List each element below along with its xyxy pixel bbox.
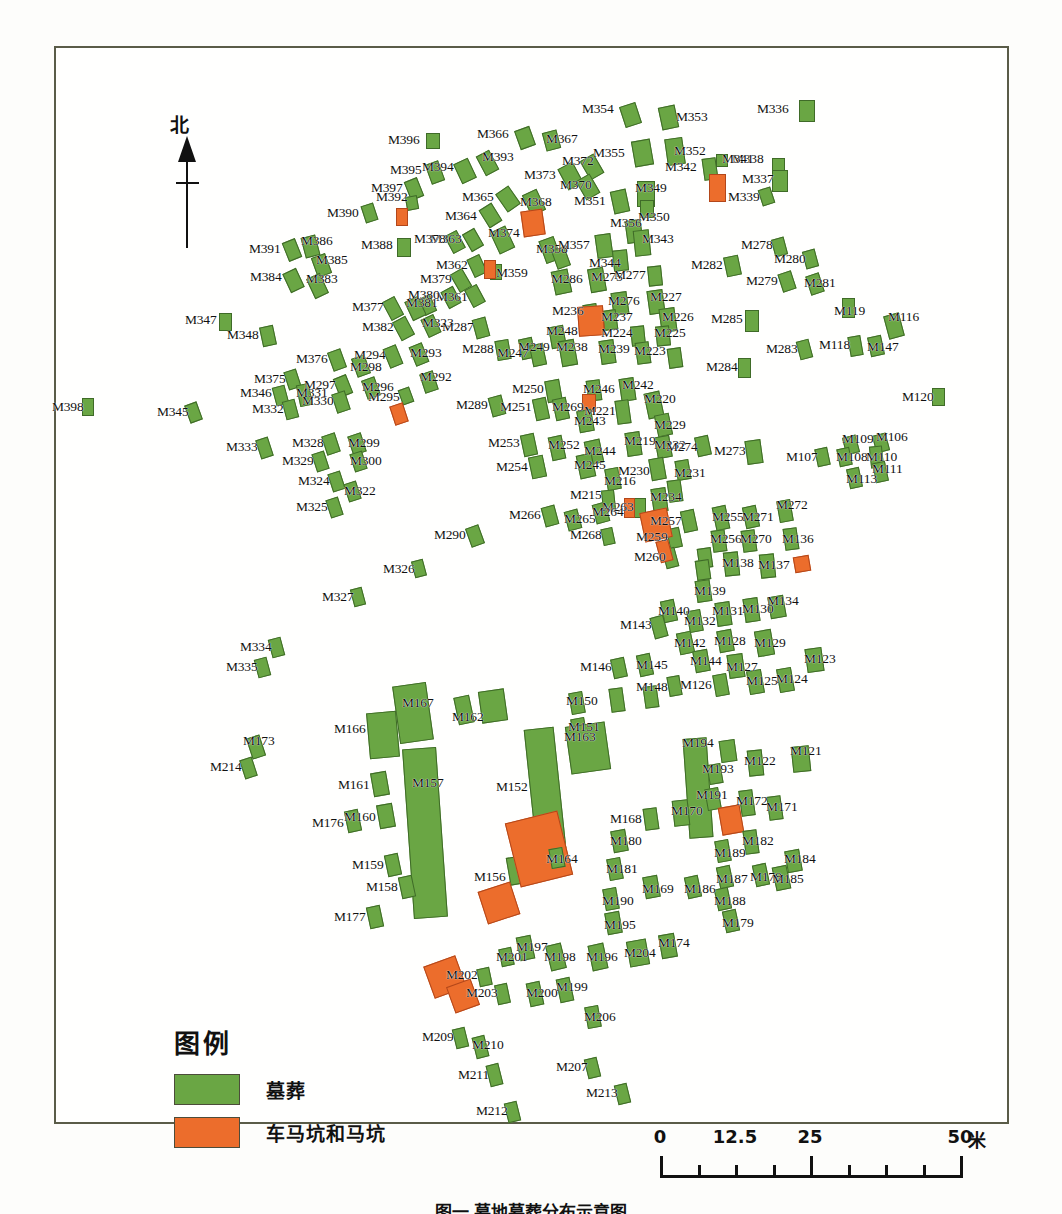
tomb-shape bbox=[612, 249, 629, 271]
scale-tick bbox=[660, 1156, 663, 1178]
chariot-pit-shape bbox=[520, 209, 545, 238]
tomb-shape bbox=[635, 341, 652, 365]
tomb-shape bbox=[654, 413, 673, 438]
tomb-shape bbox=[541, 505, 560, 528]
chariot-pit-shape bbox=[577, 305, 605, 337]
feature-label: M215 bbox=[570, 488, 601, 502]
tomb-shape bbox=[488, 395, 507, 418]
scale-tick bbox=[960, 1156, 963, 1178]
tomb-shape bbox=[883, 312, 905, 339]
chariot-pit-shape bbox=[484, 260, 496, 279]
scale-tick bbox=[810, 1156, 813, 1178]
tomb-shape bbox=[716, 629, 735, 653]
tomb-shape bbox=[419, 370, 438, 393]
tomb-shape bbox=[376, 803, 396, 829]
tomb-shape bbox=[351, 354, 371, 378]
feature-label: M212 bbox=[476, 1104, 507, 1118]
tomb-shape bbox=[306, 273, 329, 299]
tomb-shape bbox=[741, 529, 758, 553]
tomb-shape bbox=[647, 265, 663, 286]
feature-label: M120 bbox=[902, 390, 933, 404]
feature-label: M335 bbox=[226, 660, 257, 674]
tomb-shape bbox=[814, 447, 830, 467]
tomb-shape bbox=[296, 383, 313, 407]
tomb-shape bbox=[747, 749, 765, 776]
tomb-shape bbox=[551, 246, 571, 270]
legend-swatch-pit bbox=[174, 1117, 240, 1148]
tomb-shape bbox=[667, 347, 684, 369]
tomb-shape bbox=[82, 398, 94, 416]
scale-bar: 012.52550 米 bbox=[660, 1126, 1000, 1196]
feature-label: M355 bbox=[593, 146, 624, 160]
tomb-shape bbox=[327, 470, 345, 492]
feature-label: M284 bbox=[706, 360, 737, 374]
tomb-shape bbox=[842, 298, 855, 318]
feature-label: M287 bbox=[442, 320, 473, 334]
feature-label: M334 bbox=[240, 640, 271, 654]
tomb-shape bbox=[426, 133, 440, 149]
tomb-shape bbox=[282, 399, 299, 421]
tomb-shape bbox=[686, 609, 704, 633]
tomb-shape bbox=[219, 313, 232, 331]
tomb-shape bbox=[754, 629, 775, 658]
tomb-shape bbox=[472, 317, 491, 340]
tomb-shape bbox=[738, 358, 751, 378]
tomb-shape bbox=[610, 829, 629, 853]
tomb-shape bbox=[344, 809, 362, 833]
tomb-shape bbox=[642, 875, 661, 899]
feature-label: M388 bbox=[361, 238, 392, 252]
tomb-shape bbox=[802, 249, 819, 270]
tomb-shape bbox=[325, 496, 343, 518]
tomb-shape bbox=[556, 977, 575, 1003]
tomb-shape bbox=[370, 771, 390, 797]
tomb-shape bbox=[606, 857, 624, 881]
tomb-shape bbox=[465, 524, 485, 548]
tomb-shape bbox=[716, 154, 728, 167]
feature-label: M254 bbox=[496, 460, 527, 474]
tomb-shape bbox=[392, 682, 434, 744]
tomb-shape bbox=[752, 863, 770, 887]
tomb-shape bbox=[723, 255, 742, 278]
tomb-shape bbox=[714, 887, 732, 911]
tomb-shape bbox=[587, 267, 607, 293]
tomb-shape bbox=[472, 1035, 490, 1059]
feature-label: M376 bbox=[296, 352, 327, 366]
tomb-shape bbox=[494, 339, 511, 361]
tomb-shape bbox=[791, 745, 812, 773]
scale-tick-labels: 012.52550 bbox=[660, 1126, 1000, 1148]
feature-label: M347 bbox=[185, 313, 216, 327]
tomb-shape bbox=[872, 461, 889, 483]
feature-label: M373 bbox=[524, 168, 555, 182]
tomb-shape bbox=[694, 435, 712, 457]
chariot-pit-shape bbox=[478, 882, 521, 925]
legend-title: 图例 bbox=[174, 1023, 474, 1060]
tomb-shape bbox=[714, 601, 732, 627]
tomb-shape bbox=[619, 102, 642, 128]
feature-label: M143 bbox=[620, 618, 651, 632]
tomb-shape bbox=[692, 649, 711, 673]
tomb-shape bbox=[184, 401, 203, 423]
tomb-shape bbox=[542, 129, 561, 151]
tomb-shape bbox=[366, 711, 400, 759]
feature-label: M396 bbox=[388, 133, 419, 147]
feature-label: M152 bbox=[496, 780, 527, 794]
tomb-shape bbox=[654, 435, 673, 459]
tomb-shape bbox=[804, 647, 824, 673]
feature-label: M207 bbox=[556, 1060, 587, 1074]
feature-label: M365 bbox=[462, 190, 493, 204]
north-label: 北 bbox=[170, 110, 189, 137]
feature-label: M126 bbox=[680, 678, 711, 692]
tomb-shape bbox=[551, 268, 573, 295]
feature-label: M392 bbox=[376, 190, 407, 204]
tomb-shape bbox=[745, 310, 759, 332]
tomb-shape bbox=[584, 1057, 601, 1080]
feature-label: M327 bbox=[322, 590, 353, 604]
legend-label-pit: 车马坑和马坑 bbox=[266, 1119, 386, 1146]
map-canvas: 北 M336M354M353M396M366M367M355M352M338M3… bbox=[54, 46, 1009, 1124]
tomb-shape bbox=[932, 388, 945, 406]
tomb-shape bbox=[684, 875, 702, 899]
tomb-shape bbox=[867, 335, 885, 357]
north-arrow-crossbar bbox=[176, 182, 199, 184]
tomb-shape bbox=[742, 597, 760, 623]
tomb-shape bbox=[526, 981, 545, 1007]
